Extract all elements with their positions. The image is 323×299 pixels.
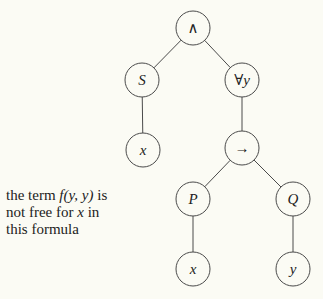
caption-line-3: this formula: [6, 221, 107, 238]
node-y: y: [276, 252, 310, 286]
node-label: →: [235, 140, 250, 156]
edge-and-forall: [205, 40, 231, 67]
node-label: ∀y: [234, 72, 250, 88]
diagram-canvas: ∧S∀yx→PQxy the term f(y, y) is not free …: [0, 0, 323, 299]
tree-edges: [142, 40, 293, 252]
node-label: y: [288, 261, 297, 277]
node-x-under-S: x: [126, 133, 160, 167]
node-P: P: [176, 182, 210, 216]
edge-S-x1: [142, 97, 143, 133]
variable-x: x: [77, 204, 84, 220]
caption-line-1: the term f(y, y) is: [6, 187, 107, 204]
edge-impl-Q: [254, 160, 281, 187]
caption-text: the term f(y, y) is not free for x in th…: [6, 187, 107, 238]
node-forall-y: ∀y: [225, 63, 259, 97]
node-x-under-P: x: [176, 252, 210, 286]
node-implication: →: [225, 131, 259, 165]
term-f-y-y: f(y, y): [59, 187, 93, 203]
node-label: P: [187, 191, 197, 207]
caption-line-2: not free for x in: [6, 204, 107, 221]
node-label: S: [138, 72, 146, 88]
edge-impl-P: [205, 160, 230, 186]
node-label: ∧: [188, 20, 199, 36]
tree-nodes: ∧S∀yx→PQxy: [125, 11, 310, 286]
node-conjunction: ∧: [176, 11, 210, 45]
parse-tree: ∧S∀yx→PQxy: [0, 0, 323, 299]
node-Q: Q: [276, 182, 310, 216]
edge-and-S: [154, 40, 181, 68]
node-label: x: [189, 261, 197, 277]
node-label: Q: [288, 191, 299, 207]
node-label: x: [139, 142, 147, 158]
node-S: S: [125, 63, 159, 97]
